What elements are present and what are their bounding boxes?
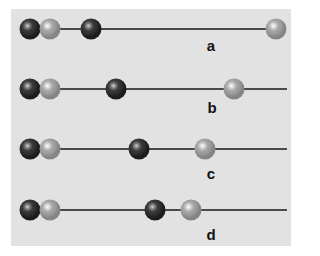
chain-line-b <box>30 88 287 90</box>
chain-line-a <box>30 28 276 30</box>
chain-line-c <box>30 148 287 150</box>
light-bead-icon <box>40 200 61 221</box>
dark-bead-icon <box>106 79 127 100</box>
light-bead-icon <box>181 200 202 221</box>
light-bead-icon <box>40 79 61 100</box>
light-bead-icon <box>195 139 216 160</box>
row-label-d: d <box>206 227 215 242</box>
dark-bead-icon <box>145 200 166 221</box>
row-label-a: a <box>207 38 215 53</box>
dark-bead-icon <box>20 19 41 40</box>
dark-bead-icon <box>20 139 41 160</box>
light-bead-icon <box>40 139 61 160</box>
dark-bead-icon <box>20 200 41 221</box>
light-bead-icon <box>266 19 287 40</box>
dark-bead-icon <box>81 19 102 40</box>
dark-bead-icon <box>20 79 41 100</box>
dark-bead-icon <box>129 139 150 160</box>
row-label-c: c <box>207 166 215 181</box>
light-bead-icon <box>40 19 61 40</box>
light-bead-icon <box>224 79 245 100</box>
row-label-b: b <box>207 100 216 115</box>
